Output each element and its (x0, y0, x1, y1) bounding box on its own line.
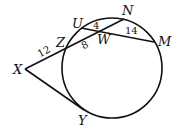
label-u: U (72, 16, 84, 31)
circle (62, 18, 162, 118)
measure-uw: 4 (93, 20, 99, 31)
label-x: X (12, 62, 23, 77)
label-z: Z (55, 35, 66, 50)
measure-zw: 8 (79, 39, 90, 52)
geometry-diagram: X Z Y U N M W 12 8 4 14 (0, 0, 187, 137)
label-m: M (157, 34, 172, 49)
tangent-xy (25, 69, 84, 110)
label-w: W (97, 32, 112, 47)
label-n: N (121, 3, 134, 18)
label-y: Y (78, 113, 88, 128)
measure-wm: 14 (125, 25, 138, 36)
